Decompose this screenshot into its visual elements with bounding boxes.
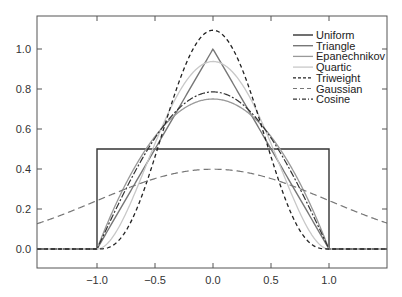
curve-epanechnikov	[37, 99, 387, 249]
legend-label-cosine: Cosine	[316, 93, 350, 105]
y-tick-label: 0.2	[16, 203, 31, 215]
y-tick-label: 0.6	[16, 123, 31, 135]
x-tick-label: 1.0	[321, 274, 336, 286]
y-tick-label: 0.8	[16, 83, 31, 95]
curve-uniform	[37, 149, 387, 249]
curve-gaussian	[37, 169, 387, 224]
x-tick-label: 0.5	[263, 274, 278, 286]
legend: UniformTriangleEpanechnikovQuarticTriwei…	[293, 29, 386, 105]
x-tick-label: −0.5	[144, 274, 166, 286]
x-tick-label: −1.0	[86, 274, 108, 286]
x-tick-label: 0.0	[205, 274, 220, 286]
kernel-chart: −1.0−0.50.00.51.00.00.20.40.60.81.0 Unif…	[0, 0, 402, 297]
y-tick-label: 0.4	[16, 163, 31, 175]
y-tick-label: 0.0	[16, 243, 31, 255]
curve-cosine	[37, 92, 387, 249]
y-tick-label: 1.0	[16, 43, 31, 55]
